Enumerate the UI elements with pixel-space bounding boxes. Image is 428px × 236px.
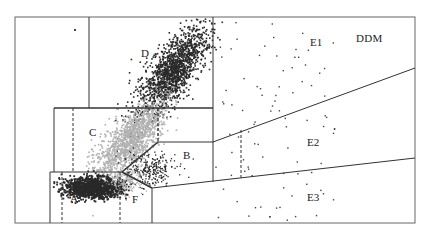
region-label-e1: E1 xyxy=(310,37,322,48)
region-label-b: B xyxy=(183,150,190,161)
region-label-e2: E2 xyxy=(307,137,319,148)
region-label-f: F xyxy=(132,194,138,205)
region-label-e3: E3 xyxy=(307,192,319,203)
scatter-points xyxy=(53,18,335,221)
region-label-a: A xyxy=(70,193,78,204)
region-label-c: C xyxy=(89,127,96,138)
diagram-title: DDM xyxy=(356,33,383,44)
region-label-d: D xyxy=(141,48,149,59)
